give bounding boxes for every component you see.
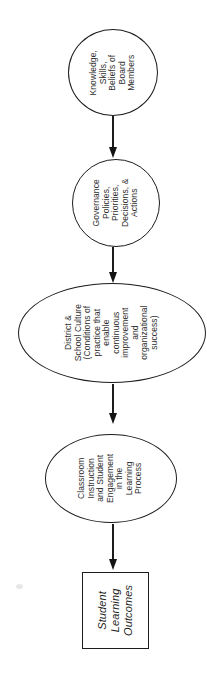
node-district-school-culture: District & School Culture (Conditions of… [18,283,206,383]
connector-arrow-4 [109,524,118,570]
arrow-head-icon [109,413,117,424]
node-classroom-instruction: Classroom Instruction and Student Engage… [45,434,177,523]
node-classroom-instruction-label: Classroom Instruction and Student Engage… [78,454,145,503]
node-board-knowledge-label: Knowledge, Skills, Beliefs of Board Memb… [89,50,137,95]
arrow-line [112,247,113,272]
flow-diagram: Knowledge, Skills, Beliefs of Board Memb… [0,0,207,682]
node-board-knowledge: Knowledge, Skills, Beliefs of Board Memb… [68,29,158,116]
node-student-learning-outcomes: Student Learning Outcomes [82,572,149,649]
arrow-head-icon [109,147,117,158]
connector-arrow-1 [109,116,118,158]
node-student-learning-outcomes-label: Student Learning Outcomes [96,585,135,636]
scan-artifact-speck [16,584,23,589]
node-governance-policies: Governance Policies, Priorities, Decisio… [72,159,160,247]
arrow-head-icon [109,272,117,283]
arrow-line [112,524,113,559]
node-district-school-culture-label: District & School Culture (Conditions of… [64,304,159,361]
arrow-line [112,384,113,413]
connector-arrow-2 [109,247,118,283]
arrow-head-icon [109,559,117,570]
arrow-line [112,116,113,147]
connector-arrow-3 [109,384,118,424]
node-governance-policies-label: Governance Policies, Priorities, Decisio… [92,179,140,227]
